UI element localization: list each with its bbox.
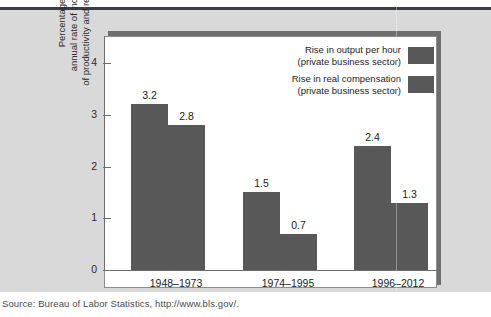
legend-label-output-per-hour-line-1: Rise in output per hour [298,44,401,56]
bar-series1-cat2 [243,192,280,270]
y-axis-title-line-3: of productivity and real wages [80,0,92,88]
y-tick-1: 1 [103,218,111,219]
bar-value-series2-cat2: 0.7 [280,219,317,231]
scan-seam-artifact [396,0,397,317]
legend-label-output-per-hour: Rise in output per hour (private busines… [298,44,408,67]
legend-label-output-per-hour-line-2: (private business sector) [298,56,401,68]
legend: Rise in output per hour (private busines… [268,44,434,102]
y-tick-label-0: 0 [91,263,97,275]
legend-label-real-compensation-line-2: (private business sector) [292,85,401,97]
y-axis-title: Percentage annual rate of increase of pr… [56,0,92,88]
y-tick-label-4: 4 [91,56,97,68]
bar-value-series2-cat1: 2.8 [168,110,205,122]
bar-value-series1-cat1: 3.2 [131,89,168,101]
legend-item-output-per-hour: Rise in output per hour (private busines… [268,44,434,67]
y-axis-line [104,36,105,271]
y-tick-label-3: 3 [91,108,97,120]
y-tick-label-1: 1 [91,211,97,223]
y-tick-3: 3 [103,115,111,116]
bar-value-series1-cat2: 1.5 [243,177,280,189]
source-note: Source: Bureau of Labor Statistics, http… [2,298,239,309]
y-tick-0: 0 [103,270,111,271]
y-tick-2: 2 [103,167,111,168]
y-tick-4: 4 [103,63,111,64]
bar-value-series1-cat3: 2.4 [354,131,391,143]
y-axis-title-line-2: annual rate of increase [68,0,80,88]
legend-item-real-compensation: Rise in real compensation (private busin… [268,73,434,96]
legend-swatch-output-per-hour [408,47,434,64]
bar-series1-cat3 [354,146,391,270]
x-axis-line [104,270,437,271]
x-axis-label-cat1: 1948–1973 [111,277,241,289]
y-axis-title-line-1: Percentage [56,0,68,88]
x-axis-label-cat3: 1996–2012 [333,277,463,289]
bar-series1-cat1 [131,104,168,270]
bar-series2-cat1 [168,125,205,270]
y-tick-label-2: 2 [91,160,97,172]
legend-label-real-compensation-line-1: Rise in real compensation [292,73,401,85]
legend-swatch-real-compensation [408,76,434,93]
bar-series2-cat2 [280,234,317,270]
chart-figure: Percentage annual rate of increase of pr… [0,0,491,317]
legend-label-real-compensation: Rise in real compensation (private busin… [292,73,408,96]
